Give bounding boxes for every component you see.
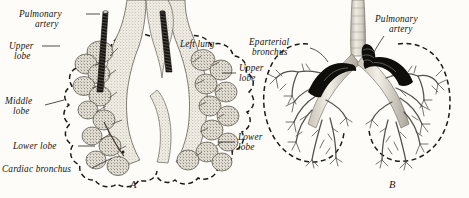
label-upper-lobe-right-line1: Upper <box>239 63 264 73</box>
label-eparterial-bronchus-line2: bronchus <box>252 47 288 57</box>
label-cardiac-bronchus: Cardiac bronchus <box>2 164 71 174</box>
label-eparterial-bronchus-line1: Eparterial <box>248 37 290 47</box>
label-left-lung: Left lung <box>179 39 215 49</box>
illustration-plate: Pulmonary artery Upper lobe Middle lobe … <box>0 0 469 198</box>
label-lower-lobe-right-line2: lobe <box>238 142 255 152</box>
label-lower-lobe-right-line1: Lower <box>237 132 263 142</box>
figure-caption-a: A <box>129 179 137 190</box>
label-upper-lobe-right-line2: lobe <box>239 73 256 83</box>
label-pulmonary-artery-b-line2: artery <box>389 24 413 34</box>
label-pulmonary-artery-line2: artery <box>35 19 59 29</box>
label-pulmonary-artery-b-line1: Pulmonary <box>374 14 418 24</box>
label-middle-lobe-line2: lobe <box>13 106 30 116</box>
label-lower-lobe-left: Lower lobe <box>12 141 57 151</box>
label-upper-lobe-left-line1: Upper <box>9 41 34 51</box>
label-middle-lobe-line1: Middle <box>4 96 32 106</box>
label-pulmonary-artery-line1: Pulmonary <box>18 9 62 19</box>
figure-caption-b: B <box>389 179 396 190</box>
label-upper-lobe-left-line2: lobe <box>14 51 31 61</box>
plate-canvas: Pulmonary artery Upper lobe Middle lobe … <box>0 0 469 198</box>
